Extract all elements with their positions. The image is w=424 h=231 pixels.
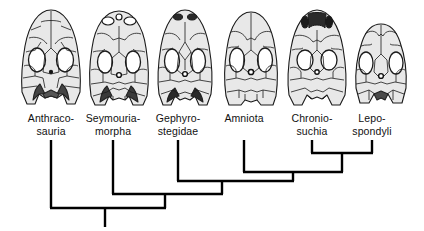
amniota-skull <box>215 8 287 108</box>
gephyrostegidae-skull <box>149 8 221 108</box>
taxon-label-lepospondyli: Lepo- spondyli <box>332 112 412 137</box>
chroniosuchia-skull <box>281 8 353 108</box>
cladogram-figure: Anthraco- sauria Seymouria- morpha Gephy… <box>0 0 424 231</box>
seymouriamorpha-skull <box>83 8 155 108</box>
lepospondyli-skull <box>345 8 417 108</box>
anthracosauria-skull <box>15 8 87 108</box>
